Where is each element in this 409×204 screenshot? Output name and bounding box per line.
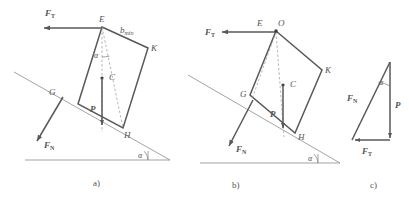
force-arrow-normal-b xyxy=(229,100,253,146)
force-label-tension-c: FT xyxy=(361,146,372,157)
point-label-E-a: E xyxy=(98,14,105,24)
force-label-normal-b: FN xyxy=(235,144,247,155)
point-label-H-b: H xyxy=(297,132,305,142)
physics-figure: α α FT FN P E K H G C bmin a) xyxy=(0,0,409,204)
panel-c: α FN P FT c) xyxy=(346,62,401,190)
angle-arc-base-a xyxy=(144,151,148,160)
point-label-E-b: E xyxy=(256,18,263,28)
panel-a: α α FT FN P E K H G C bmin a) xyxy=(14,8,170,188)
force-arrow-normal-a xyxy=(37,97,63,141)
block-outline-b xyxy=(250,31,322,133)
panel-caption-b: b) xyxy=(232,180,240,190)
force-label-weight-c: P xyxy=(395,100,401,110)
incline-line-a xyxy=(14,72,170,160)
force-label-weight-b: P xyxy=(270,109,276,119)
force-label-tension-b: FT xyxy=(204,27,215,38)
force-label-tension-a: FT xyxy=(44,8,55,19)
point-label-O-b: O xyxy=(278,18,285,28)
angle-arc-top-a xyxy=(102,56,109,57)
point-label-K-b: K xyxy=(324,65,332,75)
angle-arc-base-b xyxy=(314,154,318,163)
incline-line-b xyxy=(188,75,340,163)
point-label-G-a: G xyxy=(49,87,56,97)
dimension-label-bmin-a: bmin xyxy=(120,25,134,36)
force-label-normal-a: FN xyxy=(43,140,55,151)
point-label-G-b: G xyxy=(240,89,247,99)
panel-b: α FT FN P E O K H G C b) xyxy=(188,18,340,190)
angle-label-top-a: α xyxy=(94,51,99,60)
force-vector-normal-c xyxy=(352,62,390,140)
point-label-H-a: H xyxy=(123,130,131,140)
angle-label-apex-c: α xyxy=(379,78,384,87)
force-label-normal-c: FN xyxy=(346,93,358,104)
angle-label-base-b: α xyxy=(308,154,313,163)
point-label-C-b: C xyxy=(290,79,297,89)
corner-dot-O-b xyxy=(274,29,277,32)
panel-caption-c: c) xyxy=(370,180,377,190)
diagonal-dashed-b xyxy=(252,32,276,99)
force-label-weight-a: P xyxy=(90,104,96,114)
angle-label-base-a: α xyxy=(138,151,143,160)
point-label-C-a: C xyxy=(109,72,116,82)
figure-canvas: α α FT FN P E K H G C bmin a) xyxy=(0,0,409,204)
point-label-K-a: K xyxy=(150,43,158,53)
panel-caption-a: a) xyxy=(93,178,100,188)
